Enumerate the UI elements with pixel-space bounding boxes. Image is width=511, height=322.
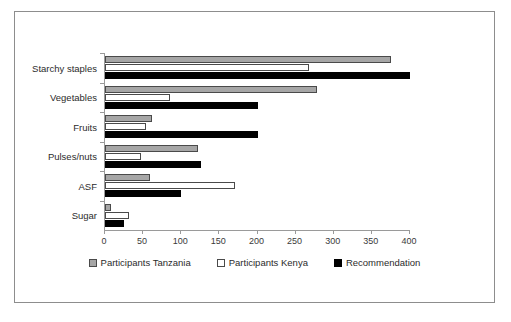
y-tick-4 (100, 171, 104, 172)
x-tick-label-100: 100 (173, 236, 188, 246)
bar-kenya (105, 153, 141, 160)
category-label-pulses-nuts: Pulses/nuts (48, 151, 97, 162)
x-tick-300 (333, 230, 334, 234)
bar-recommendation (105, 102, 258, 109)
x-tick-50 (142, 230, 143, 234)
legend-item-tanzania[interactable]: Participants Tanzania (89, 257, 191, 268)
y-tick-2 (100, 112, 104, 113)
category-label-sugar: Sugar (72, 210, 97, 221)
x-tick-label-200: 200 (249, 236, 264, 246)
x-tick-400 (409, 230, 410, 234)
plot-area: 050100150200250300350400 Starchy staples… (104, 53, 409, 230)
bar-group: Starchy staples (105, 53, 409, 83)
bar-recommendation (105, 72, 410, 79)
legend-item-recommendation[interactable]: Recommendation (334, 257, 420, 268)
category-label-vegetables: Vegetables (50, 92, 97, 103)
bar-tanzania (105, 204, 111, 211)
x-tick-label-0: 0 (101, 236, 106, 246)
bar-recommendation (105, 131, 258, 138)
y-tick-0 (100, 53, 104, 54)
x-tick-label-350: 350 (363, 236, 378, 246)
bar-recommendation (105, 190, 181, 197)
x-tick-150 (218, 230, 219, 234)
bar-kenya (105, 212, 129, 219)
x-tick-0 (104, 230, 105, 234)
category-label-asf: ASF (79, 180, 97, 191)
category-label-starchy-staples: Starchy staples (32, 62, 97, 73)
bar-group: Pulses/nuts (105, 142, 409, 172)
category-label-fruits: Fruits (73, 121, 97, 132)
bar-group: Sugar (105, 201, 409, 231)
legend-swatch-tanzania-icon (89, 259, 97, 267)
x-tick-label-50: 50 (137, 236, 147, 246)
x-tick-200 (257, 230, 258, 234)
bar-group: Vegetables (105, 83, 409, 113)
legend-label-recommendation: Recommendation (346, 257, 420, 268)
bar-kenya (105, 64, 309, 71)
bar-group: Fruits (105, 112, 409, 142)
bar-kenya (105, 94, 170, 101)
x-tick-100 (180, 230, 181, 234)
legend-label-kenya: Participants Kenya (229, 257, 308, 268)
bar-tanzania (105, 145, 198, 152)
legend-item-kenya[interactable]: Participants Kenya (217, 257, 308, 268)
x-tick-label-400: 400 (401, 236, 416, 246)
x-tick-label-250: 250 (287, 236, 302, 246)
legend-swatch-kenya-icon (217, 259, 225, 267)
bar-recommendation (105, 161, 201, 168)
x-tick-250 (295, 230, 296, 234)
bar-kenya (105, 123, 146, 130)
legend-swatch-recommendation-icon (334, 259, 342, 267)
chart-legend: Participants TanzaniaParticipants KenyaR… (15, 257, 494, 268)
bar-tanzania (105, 174, 150, 181)
bar-kenya (105, 182, 235, 189)
bar-tanzania (105, 115, 152, 122)
bar-group: ASF (105, 171, 409, 201)
bar-tanzania (105, 56, 391, 63)
bar-tanzania (105, 86, 317, 93)
y-tick-3 (100, 142, 104, 143)
chart-figure-frame: 050100150200250300350400 Starchy staples… (14, 11, 495, 303)
x-tick-label-300: 300 (325, 236, 340, 246)
x-tick-label-150: 150 (211, 236, 226, 246)
legend-label-tanzania: Participants Tanzania (101, 257, 191, 268)
y-tick-5 (100, 201, 104, 202)
bar-recommendation (105, 220, 124, 227)
x-tick-350 (371, 230, 372, 234)
y-tick-1 (100, 83, 104, 84)
